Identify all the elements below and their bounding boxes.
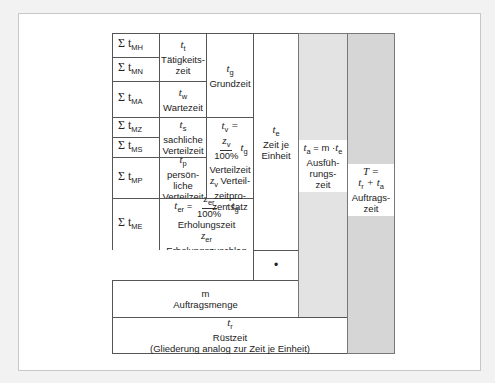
multiply-dot: •: [274, 260, 278, 271]
component-me: Σ tME: [112, 198, 160, 251]
sub-label: s: [183, 124, 187, 133]
label: Grundzeit: [209, 78, 250, 89]
label: zeit: [364, 203, 379, 214]
label: Zeit je: [263, 139, 289, 150]
ausfuehrungszeit-box: ta = m ·te Ausfüh- rungs- zeit: [299, 140, 346, 192]
sub-label: er: [177, 205, 184, 214]
sub-label: MP: [131, 176, 142, 185]
label: rungs-: [310, 168, 337, 179]
sub-label: e: [275, 129, 279, 138]
grundzeit-cell: tg Grundzeit: [206, 33, 254, 118]
label: liche: [173, 180, 193, 191]
label: Auftrags-: [352, 192, 391, 203]
component-mn: Σ tMN: [112, 57, 160, 82]
label: Auftragsmenge: [173, 299, 237, 310]
equals: =: [187, 200, 193, 211]
sub-label: MN: [131, 67, 143, 76]
ausfuehrungszeit-cell: ta = m ·te Ausfüh- rungs- zeit: [298, 33, 348, 318]
sub-label: g: [229, 68, 233, 77]
sub-label: e: [338, 147, 342, 156]
sachliche-verteilzeit-cell: ts sachliche Verteilzeit: [159, 117, 207, 158]
note: (Gliederung analog zur Zeit je Einheit): [150, 343, 310, 354]
sub-label: MA: [131, 97, 142, 106]
sub-label: v: [227, 140, 231, 149]
verteilzeit-cell: tv = zv 100% tg Verteilzeit zv Verteil- …: [206, 117, 254, 199]
sub-label: p: [182, 159, 186, 168]
label: zeit: [316, 179, 331, 190]
sub-label: v: [214, 180, 218, 189]
spacer-cell: [112, 250, 254, 281]
sum-label: Σ t: [118, 60, 131, 74]
label: sachliche: [163, 134, 203, 145]
sub-label: MH: [131, 43, 143, 52]
auftragsmenge-cell: m Auftragsmenge: [112, 280, 299, 318]
sub-label: v: [225, 125, 229, 134]
component-ma: Σ tMA: [112, 81, 160, 118]
sub-label: t: [183, 44, 185, 53]
label: persön-: [167, 169, 199, 180]
taetigkeitszeit-cell: tt Tätigkeits- zeit: [159, 33, 207, 82]
label: Rüstzeit: [213, 332, 247, 343]
label: zentsatz: [212, 201, 247, 212]
label: Verteil-: [221, 175, 251, 186]
component-mz: Σ tMZ: [112, 117, 160, 138]
sub-label: g: [244, 147, 248, 156]
sub-label: MS: [131, 145, 142, 154]
sub-label: r: [230, 322, 233, 331]
label: zeitpro-: [214, 190, 246, 201]
denominator: 100%: [214, 151, 238, 161]
sum-label: Σ t: [118, 138, 131, 152]
wartezeit-cell: tw Wartezeit: [159, 81, 207, 118]
symbol: m: [202, 288, 210, 299]
multiply-cell: •: [253, 250, 299, 281]
label: Einheit: [261, 150, 290, 161]
zeit-je-einheit-cell: te Zeit je Einheit: [253, 33, 299, 251]
sub-label: w: [182, 92, 187, 101]
equals: =: [231, 119, 238, 131]
formula: = m ·: [311, 142, 336, 153]
component-mp: Σ tMP: [112, 157, 160, 199]
label: Wartezeit: [163, 102, 203, 113]
sub-label: ME: [131, 222, 142, 231]
fraction: zv 100%: [214, 135, 238, 161]
label: zeit: [176, 65, 191, 76]
sum-label: Σ t: [118, 118, 131, 132]
sum-label: Σ t: [118, 36, 131, 50]
sub-label: MZ: [131, 125, 142, 134]
sub-label: er: [205, 235, 212, 244]
sum-label: Σ t: [118, 215, 131, 229]
component-mh: Σ tMH: [112, 33, 160, 58]
sum-label: Σ t: [118, 169, 131, 183]
sum-label: Σ t: [118, 90, 131, 104]
label: Ausfüh-: [307, 157, 340, 168]
sub-label: a: [380, 182, 384, 191]
plus: +: [364, 176, 377, 188]
auftragszeit-cell: T = tr + ta Auftrags- zeit: [347, 33, 395, 354]
ruestzeit-cell: tr Rüstzeit (Gliederung analog zur Zeit …: [112, 317, 348, 354]
component-ms: Σ tMS: [112, 137, 160, 158]
auftragszeit-box: T = tr + ta Auftrags- zeit: [348, 164, 395, 216]
label: Tätigkeits-: [161, 54, 205, 65]
